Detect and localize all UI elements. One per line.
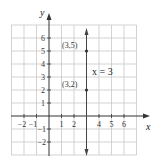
y-axis-label: y <box>39 7 45 18</box>
y-tick-1: 1 <box>41 99 45 108</box>
x-tick-neg2: −2 <box>18 120 27 129</box>
point-label-3-2: (3,2) <box>62 80 78 89</box>
y-tick-neg1: −1 <box>37 125 46 134</box>
point-3-5 <box>85 49 88 52</box>
y-tick-2: 2 <box>41 86 45 95</box>
y-tick-6: 6 <box>41 34 45 43</box>
y-tick-5: 5 <box>41 47 45 56</box>
axes <box>11 18 146 156</box>
x-tick-4: 4 <box>97 120 101 129</box>
x-tick-2: 2 <box>72 120 76 129</box>
y-tick-3: 3 <box>41 73 45 82</box>
line-equation-label: x = 3 <box>92 66 113 77</box>
x-tick-1: 1 <box>60 120 64 129</box>
y-axis-arrow-icon <box>47 13 52 20</box>
coordinate-plane: y x (3,5) (3,2) x = 3 6 5 4 3 2 1 −1 −2 … <box>0 0 157 167</box>
point-3-2 <box>85 88 88 91</box>
x-tick-5: 5 <box>110 120 114 129</box>
x-tick-6: 6 <box>122 120 126 129</box>
line-up-arrow-icon <box>85 28 89 35</box>
x-axis-label: x <box>145 121 151 132</box>
x-axis-arrow-icon <box>143 114 150 119</box>
x-tick-neg1: −1 <box>29 120 38 129</box>
y-tick-4: 4 <box>41 60 45 69</box>
y-tick-neg2: −2 <box>37 138 46 147</box>
point-label-3-5: (3,5) <box>62 41 78 50</box>
